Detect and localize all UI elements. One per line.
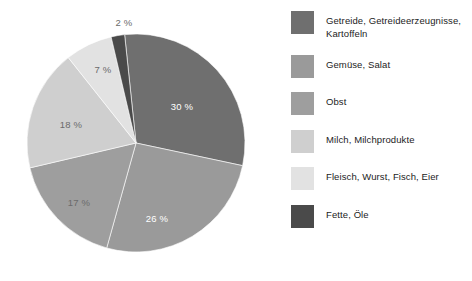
legend-color-swatch [291, 205, 314, 228]
pie-chart-plot-area: 30 %26 %17 %18 %7 %2 % [0, 0, 280, 281]
legend-item-label: Gemüse, Salat [326, 55, 390, 72]
legend-item-label: Obst [326, 92, 346, 109]
pie-slice-group [27, 34, 245, 252]
chart-legend: Getreide, Getreideerzeugnisse, Kartoffel… [291, 11, 472, 242]
legend-item: Getreide, Getreideerzeugnisse, Kartoffel… [291, 11, 472, 40]
legend-color-swatch [291, 11, 314, 34]
pie-chart-svg [0, 0, 280, 281]
pie-chart-figure: 30 %26 %17 %18 %7 %2 % Getreide, Getreid… [0, 0, 472, 281]
legend-item-label: Getreide, Getreideerzeugnisse, Kartoffel… [326, 11, 461, 40]
legend-item: Obst [291, 92, 472, 115]
legend-item: Fette, Öle [291, 205, 472, 228]
legend-item: Fleisch, Wurst, Fisch, Eier [291, 167, 472, 190]
legend-item: Milch, Milchprodukte [291, 130, 472, 153]
legend-color-swatch [291, 130, 314, 153]
legend-color-swatch [291, 92, 314, 115]
legend-item-label: Fette, Öle [326, 205, 369, 222]
legend-item-label: Fleisch, Wurst, Fisch, Eier [326, 167, 439, 184]
legend-color-swatch [291, 55, 314, 78]
legend-item-label: Milch, Milchprodukte [326, 130, 415, 147]
legend-item: Gemüse, Salat [291, 55, 472, 78]
legend-color-swatch [291, 167, 314, 190]
